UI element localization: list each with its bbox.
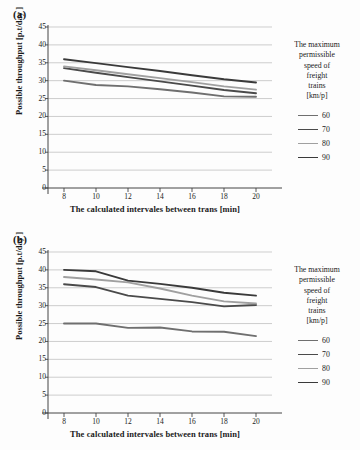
- legend-item-80[interactable]: 80: [277, 362, 357, 376]
- legend-title-line: The maximum: [277, 40, 357, 50]
- series-line-80: [64, 66, 256, 89]
- x-tick-label: 12: [116, 192, 140, 201]
- legend-item-60[interactable]: 60: [277, 334, 357, 348]
- legend-title-line: trains: [277, 81, 357, 91]
- legend-item-60[interactable]: 60: [277, 109, 357, 123]
- x-tick-label: 10: [84, 192, 108, 201]
- legend-title-b: The maximumpermissiblespeed offreighttra…: [277, 265, 357, 327]
- x-tick-label: 16: [180, 417, 204, 426]
- legend-label: 80: [322, 139, 336, 148]
- series-line-60: [64, 81, 256, 97]
- legend-label: 80: [322, 364, 336, 373]
- legend-title-line: freight: [277, 296, 357, 306]
- legend-items-a: 60708090: [277, 109, 357, 165]
- x-tick-label: 8: [52, 192, 76, 201]
- legend-label: 60: [322, 336, 336, 345]
- legend-item-80[interactable]: 80: [277, 137, 357, 151]
- legend-title-line: freight: [277, 71, 357, 81]
- legend-swatch-line-icon: [298, 129, 318, 130]
- legend-swatch-line-icon: [298, 382, 318, 383]
- legend-title-line: permissible: [277, 50, 357, 60]
- legend-swatch-line-icon: [298, 143, 318, 144]
- legend-title-a: The maximumpermissiblespeed offreighttra…: [277, 40, 357, 102]
- legend-title-line: speed of: [277, 61, 357, 71]
- x-tick-labels-a: 8101214161820: [0, 192, 360, 204]
- legend-item-70[interactable]: 70: [277, 123, 357, 137]
- legend-title-line: trains: [277, 306, 357, 316]
- x-tick-label: 16: [180, 192, 204, 201]
- x-tick-label: 20: [244, 192, 268, 201]
- x-tick-label: 8: [52, 417, 76, 426]
- legend-swatch-line-icon: [298, 115, 318, 116]
- chart-panel-b: (b) Possible throughput [p.t/day ] 05101…: [0, 225, 360, 450]
- legend-label: 70: [322, 350, 336, 359]
- x-tick-label: 18: [212, 192, 236, 201]
- x-tick-labels-b: 8101214161820: [0, 417, 360, 429]
- legend-swatch-line-icon: [298, 340, 318, 341]
- legend-title-line: [km/p]: [277, 91, 357, 101]
- x-tick-label: 20: [244, 417, 268, 426]
- figure-container: (a) Possible throughput [p.t/day ] 05101…: [0, 0, 360, 450]
- legend-title-line: permissible: [277, 275, 357, 285]
- legend-item-70[interactable]: 70: [277, 348, 357, 362]
- x-tick-label: 10: [84, 417, 108, 426]
- x-tick-label: 14: [148, 192, 172, 201]
- legend-b: The maximumpermissiblespeed offreighttra…: [277, 265, 357, 390]
- series-line-90: [64, 270, 256, 296]
- legend-label: 90: [322, 378, 336, 387]
- x-axis-title-b: The calculated intervales between trans …: [30, 429, 280, 439]
- legend-label: 90: [322, 153, 336, 162]
- legend-title-line: The maximum: [277, 265, 357, 275]
- chart-panel-a: (a) Possible throughput [p.t/day ] 05101…: [0, 0, 360, 225]
- legend-swatch-line-icon: [298, 157, 318, 158]
- series-line-60: [64, 324, 256, 337]
- legend-item-90[interactable]: 90: [277, 376, 357, 390]
- legend-title-line: [km/p]: [277, 316, 357, 326]
- legend-item-90[interactable]: 90: [277, 151, 357, 165]
- legend-label: 70: [322, 125, 336, 134]
- legend-swatch-line-icon: [298, 354, 318, 355]
- legend-a: The maximumpermissiblespeed offreighttra…: [277, 40, 357, 165]
- x-tick-label: 14: [148, 417, 172, 426]
- x-tick-label: 18: [212, 417, 236, 426]
- x-tick-label: 12: [116, 417, 140, 426]
- legend-label: 60: [322, 111, 336, 120]
- legend-swatch-line-icon: [298, 368, 318, 369]
- x-axis-title-a: The calculated intervales between trans …: [30, 204, 280, 214]
- legend-items-b: 60708090: [277, 334, 357, 390]
- legend-title-line: speed of: [277, 286, 357, 296]
